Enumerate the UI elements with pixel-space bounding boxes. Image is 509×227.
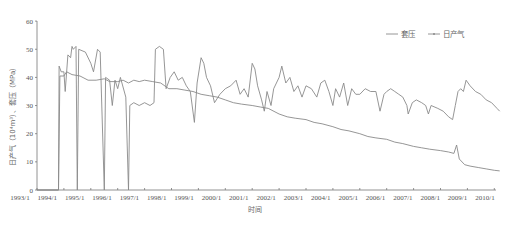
y-axis-ticks: 0102030405060 (26, 18, 37, 195)
y-tick-label: 20 (26, 130, 34, 138)
series-layer (37, 46, 500, 190)
y-tick-label: 50 (26, 46, 34, 54)
legend-marker-icon (433, 33, 435, 35)
chart-canvas: 0102030405060 1993/11994/11995/11996/119… (0, 0, 509, 227)
x-tick-label: 2006/1 (366, 194, 386, 202)
x-tick-label: 2000/1 (202, 194, 222, 202)
x-tick-label: 1999/1 (174, 194, 194, 202)
casing-pressure-line (37, 72, 500, 190)
x-axis-title: 时间 (248, 205, 262, 214)
y-axis-title: 日产气（10⁴m³）、套压（MPa） (8, 64, 17, 167)
x-tick-label: 1993/1 (10, 194, 30, 202)
x-tick-label: 2007/1 (393, 194, 413, 202)
y-tick-label: 10 (26, 158, 34, 166)
x-tick-label: 2002/1 (256, 194, 276, 202)
x-tick-label: 2005/1 (338, 194, 358, 202)
x-tick-label: 1994/1 (38, 194, 58, 202)
y-tick-label: 30 (26, 102, 34, 110)
x-tick-label: 2010/1 (475, 194, 495, 202)
legend-label-casing-pressure: 套压 (401, 29, 416, 39)
y-tick-label: 60 (26, 18, 34, 26)
x-tick-label: 2001/1 (229, 194, 249, 202)
y-tick-label: 0 (30, 187, 34, 195)
y-tick-label: 40 (26, 74, 34, 82)
legend-label-daily-gas: 日产气 (443, 29, 465, 39)
x-tick-label: 1998/1 (147, 194, 167, 202)
legend: 套压 日产气 (386, 29, 465, 39)
daily-gas-line (37, 46, 500, 190)
x-tick-label: 1995/1 (65, 194, 85, 202)
x-tick-label: 2003/1 (284, 194, 304, 202)
x-tick-label: 2009/1 (448, 194, 468, 202)
x-tick-label: 2008/1 (421, 194, 441, 202)
x-tick-label: 1997/1 (120, 194, 140, 202)
x-tick-label: 1996/1 (92, 194, 112, 202)
x-tick-label: 2004/1 (311, 194, 331, 202)
